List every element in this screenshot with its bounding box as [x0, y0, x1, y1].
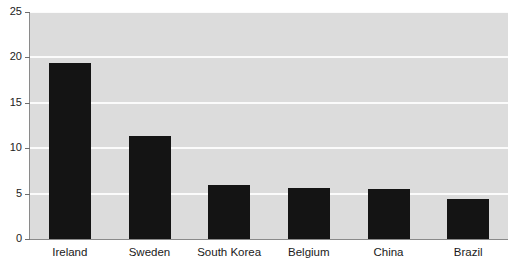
x-tick-label: South Korea — [189, 245, 269, 259]
bar-chart: 0510152025 IrelandSwedenSouth KoreaBelgi… — [0, 0, 508, 267]
y-tick-label: 15 — [0, 97, 22, 108]
x-axis-line — [30, 239, 508, 240]
x-tick-label: Sweden — [110, 245, 190, 259]
gridline — [30, 12, 508, 13]
gridline — [30, 193, 508, 195]
gridline — [30, 56, 508, 58]
y-tick-mark — [25, 194, 30, 195]
x-tick-label: Belgium — [269, 245, 349, 259]
y-tick-label: 25 — [0, 6, 22, 17]
x-tick-label: China — [349, 245, 429, 259]
bar — [288, 188, 330, 239]
y-tick-mark — [25, 57, 30, 58]
y-tick-label: 5 — [0, 188, 22, 199]
y-tick-mark — [25, 239, 30, 240]
x-tick-label: Brazil — [428, 245, 508, 259]
gridline — [30, 147, 508, 149]
y-axis-line — [29, 12, 30, 240]
chart-title — [0, 0, 508, 3]
y-tick-label: 10 — [0, 142, 22, 153]
bar — [208, 185, 250, 239]
bar — [368, 189, 410, 239]
y-tick-mark — [25, 103, 30, 104]
y-tick-mark — [25, 12, 30, 13]
y-tick-label: 20 — [0, 51, 22, 62]
bar — [49, 63, 91, 239]
x-tick-label: Ireland — [30, 245, 110, 259]
plot-area — [30, 12, 508, 239]
bar — [447, 199, 489, 239]
y-tick-label: 0 — [0, 233, 22, 244]
bar — [129, 136, 171, 239]
gridline — [30, 102, 508, 104]
y-tick-mark — [25, 148, 30, 149]
